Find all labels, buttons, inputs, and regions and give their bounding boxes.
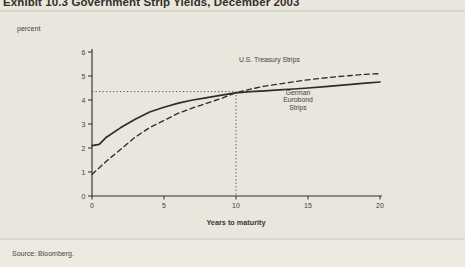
y-axis-unit-label: percent [17, 25, 40, 32]
y-tick-label: 6 [82, 49, 86, 56]
us-treasury-strips-label: U.S. Treasury Strips [239, 56, 300, 63]
y-tick-label: 2 [82, 145, 86, 152]
title-divider [0, 10, 465, 12]
y-tick-label: 1 [82, 169, 86, 176]
y-tick-label: 3 [82, 121, 86, 128]
german-eurobond-strips-label: German Eurobond Strips [274, 89, 322, 111]
source-note: Source: Bloomberg. [12, 250, 74, 257]
yield-curve-chart: 012345605101520 [0, 36, 465, 236]
exhibit-title-text: Exhibit 10.3 Government Strip Yields, De… [3, 0, 465, 8]
chart-ticks: 012345605101520 [82, 49, 384, 209]
x-tick-label: 5 [162, 202, 166, 209]
x-axis-title: Years to maturity [92, 218, 380, 227]
y-tick-label: 4 [82, 97, 86, 104]
x-tick-label: 15 [304, 202, 312, 209]
y-tick-label: 0 [82, 193, 86, 200]
x-tick-label: 20 [376, 202, 384, 209]
x-tick-label: 10 [232, 202, 240, 209]
chart-axes [92, 49, 382, 196]
x-tick-label: 0 [90, 202, 94, 209]
exhibit-title: Exhibit 10.3 Government Strip Yields, De… [3, 0, 465, 9]
exhibit-page: Exhibit 10.3 Government Strip Yields, De… [0, 0, 465, 267]
y-tick-label: 5 [82, 73, 86, 80]
